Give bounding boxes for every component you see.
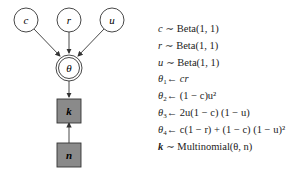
- svg-text:θ: θ: [66, 62, 72, 74]
- edge-c-theta: [34, 29, 60, 56]
- node-k: k: [57, 99, 81, 123]
- node-r: r: [57, 8, 81, 32]
- model-equations: c ∼ Beta(1, 1) r ∼ Beta(1, 1) u ∼ Beta(1…: [158, 21, 285, 155]
- svg-text:u: u: [109, 14, 115, 26]
- graphical-model: c r u θ k n: [0, 0, 140, 172]
- node-theta: θ: [56, 55, 82, 81]
- equation-r: r ∼ Beta(1, 1): [158, 38, 285, 55]
- equation-u: u ∼ Beta(1, 1): [158, 55, 285, 72]
- svg-text:c: c: [24, 14, 29, 26]
- equation-theta3: θ3← 2u(1 − c) (1 − u): [158, 105, 285, 122]
- node-n: n: [57, 143, 81, 167]
- equation-theta2: θ2← (1 − c)u²: [158, 88, 285, 105]
- svg-text:n: n: [66, 149, 72, 161]
- edge-u-theta: [78, 29, 104, 56]
- node-c: c: [14, 8, 38, 32]
- svg-text:k: k: [66, 105, 72, 117]
- equation-c: c ∼ Beta(1, 1): [158, 21, 285, 38]
- equation-theta1: θ1← cr: [158, 71, 285, 88]
- svg-text:r: r: [67, 14, 72, 26]
- equation-theta4: θ4← c(1 − r) + (1 − c) (1 − u)²: [158, 122, 285, 139]
- equation-k: k ∼ Multinomial(θ, n): [158, 139, 285, 156]
- node-u: u: [100, 8, 124, 32]
